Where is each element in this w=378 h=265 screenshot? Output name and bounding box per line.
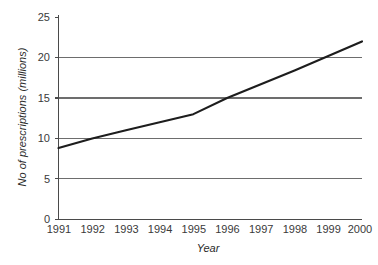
- x-tick-label-1992: 1992: [80, 223, 104, 235]
- gridlines: [59, 58, 363, 179]
- y-tick-labels: 0 5 10 15 20 25: [38, 11, 50, 225]
- y-tick-label-25: 25: [38, 11, 50, 23]
- x-tick-label-1994: 1994: [148, 223, 172, 235]
- x-tick-label-1995: 1995: [182, 223, 206, 235]
- y-axis-title: No of prescriptions (millions): [16, 47, 28, 186]
- x-tick-label-1993: 1993: [114, 223, 138, 235]
- x-tick-label-2000: 2000: [348, 223, 372, 235]
- y-tick-label-10: 10: [38, 132, 50, 144]
- x-tick-label-1991: 1991: [47, 223, 71, 235]
- line-chart-figure: 0 5 10 15 20 25 1991 1992 1993 1994 1995…: [0, 0, 378, 265]
- y-tick-label-15: 15: [38, 92, 50, 104]
- y-tick-label-20: 20: [38, 51, 50, 63]
- x-tick-label-1997: 1997: [249, 223, 273, 235]
- x-tick-label-1998: 1998: [283, 223, 307, 235]
- x-tick-label-1996: 1996: [215, 223, 239, 235]
- axes: [59, 15, 363, 220]
- x-tick-labels: 1991 1992 1993 1994 1995 1996 1997 1998 …: [47, 223, 372, 235]
- y-tick-label-5: 5: [44, 173, 50, 185]
- x-axis-title: Year: [197, 242, 221, 254]
- x-tick-label-1999: 1999: [316, 223, 340, 235]
- chart-canvas: 0 5 10 15 20 25 1991 1992 1993 1994 1995…: [0, 0, 378, 265]
